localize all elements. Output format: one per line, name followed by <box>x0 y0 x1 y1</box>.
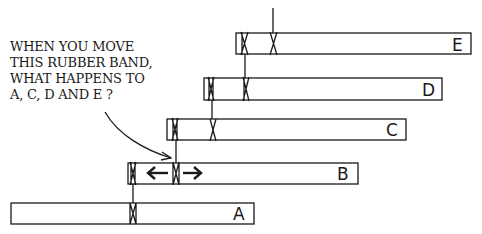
question-line-1: WHEN YOU MOVE <box>10 39 175 55</box>
rubber-band-diagram: A B C D E WHEN YOU MOVE THIS RUBBER BAND… <box>0 0 482 234</box>
bar-label-b: B <box>337 164 349 184</box>
question-line-3: WHAT HAPPENS TO <box>10 71 175 87</box>
question-text: WHEN YOU MOVE THIS RUBBER BAND, WHAT HAP… <box>10 39 175 103</box>
diagram-canvas: A B C D E <box>0 0 482 234</box>
bar-label-a: A <box>233 204 245 224</box>
bar-label-d: D <box>422 80 435 100</box>
bar-label-e: E <box>452 35 463 55</box>
bar-label-c: C <box>386 120 398 140</box>
question-line-2: THIS RUBBER BAND, <box>10 55 175 71</box>
bar-d <box>204 78 442 100</box>
bar-c <box>167 119 406 140</box>
pointer-arrow <box>105 112 171 160</box>
question-line-4: A, C, D AND E ? <box>10 87 175 103</box>
